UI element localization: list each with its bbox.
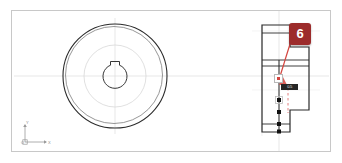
dimension-chip[interactable]: 0.5 — [281, 84, 298, 90]
ucs-y-label: Y — [26, 120, 29, 125]
grip-marker-selected[interactable] — [274, 74, 283, 83]
cad-canvas[interactable]: 6 0.5 Y X O — [0, 0, 342, 163]
ucs-x-label: X — [48, 140, 51, 145]
ucs-axis-icon — [23, 124, 47, 144]
callout-badge-6[interactable]: 6 — [289, 23, 311, 45]
dimension-chip-value: 0.5 — [281, 84, 298, 90]
ucs-origin-label: O — [21, 140, 24, 145]
